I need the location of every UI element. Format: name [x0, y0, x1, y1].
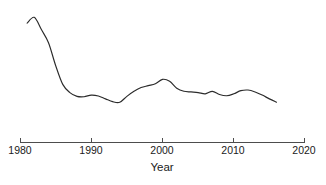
chart-container: 1980 1990 2000 2010 2020 Year	[0, 0, 326, 185]
x-axis-label-1990: 1990	[79, 144, 103, 156]
chart-background	[0, 0, 326, 185]
x-axis-title: Year	[150, 161, 173, 173]
line-chart: 1980 1990 2000 2010 2020 Year	[0, 0, 326, 185]
x-axis-label-2000: 2000	[150, 144, 174, 156]
x-axis-label-2020: 2020	[292, 144, 316, 156]
x-axis-label-2010: 2010	[221, 144, 245, 156]
x-axis-label-1980: 1980	[8, 144, 32, 156]
